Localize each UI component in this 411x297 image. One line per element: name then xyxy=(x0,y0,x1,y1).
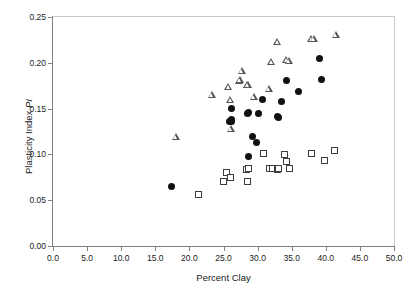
data-point-circle xyxy=(245,109,252,116)
y-axis-tick xyxy=(48,200,53,201)
x-axis-tick-label: 45.0 xyxy=(352,254,369,263)
data-point-circle xyxy=(316,55,323,62)
x-axis-tick xyxy=(224,246,225,251)
data-point-circle xyxy=(259,96,266,103)
y-axis-tick xyxy=(48,154,53,155)
data-point-circle xyxy=(278,98,285,105)
data-point-square xyxy=(275,165,282,172)
scatter-plot-figure: 0.000.050.100.150.200.250.05.010.015.020… xyxy=(0,0,411,297)
data-point-triangle xyxy=(227,125,235,132)
data-point-square xyxy=(281,151,288,158)
data-point-circle xyxy=(283,77,290,84)
y-axis-tick xyxy=(48,109,53,110)
data-point-circle xyxy=(245,153,252,160)
x-axis-tick-label: 15.0 xyxy=(147,254,164,263)
x-axis-tick xyxy=(87,246,88,251)
data-point-square xyxy=(244,178,251,185)
y-axis-tick-label: 0.25 xyxy=(29,13,46,22)
data-point-circle xyxy=(275,114,282,121)
data-point-circle xyxy=(295,88,302,95)
x-axis-tick xyxy=(360,246,361,251)
data-point-circle xyxy=(255,110,262,117)
data-point-triangle xyxy=(172,133,180,140)
data-point-circle xyxy=(228,118,235,125)
x-axis-tick-label: 35.0 xyxy=(283,254,300,263)
x-axis-tick-label: 20.0 xyxy=(181,254,198,263)
data-point-triangle xyxy=(273,38,281,45)
x-axis-tick-label: 10.0 xyxy=(113,254,130,263)
y-axis-tick xyxy=(48,17,53,18)
y-axis-title-symbol: PI xyxy=(23,99,34,108)
y-axis-tick xyxy=(48,63,53,64)
x-axis-tick-label: 30.0 xyxy=(249,254,266,263)
data-point-triangle xyxy=(285,57,293,64)
data-series-layer xyxy=(53,17,394,246)
data-point-triangle xyxy=(244,81,252,88)
x-axis-tick-label: 40.0 xyxy=(318,254,335,263)
data-point-circle xyxy=(228,105,235,112)
data-point-square xyxy=(331,147,338,154)
x-axis-tick xyxy=(326,246,327,251)
data-point-triangle xyxy=(224,83,232,90)
x-axis-tick xyxy=(258,246,259,251)
x-axis-tick xyxy=(189,246,190,251)
data-point-triangle xyxy=(310,35,318,42)
data-point-square xyxy=(260,150,267,157)
x-axis-tick xyxy=(292,246,293,251)
data-point-triangle xyxy=(332,31,340,38)
data-point-square xyxy=(308,150,315,157)
data-point-triangle xyxy=(265,85,273,92)
x-axis-tick-label: 5.0 xyxy=(81,254,93,263)
data-point-triangle xyxy=(250,93,258,100)
x-axis-tick xyxy=(53,246,54,251)
data-point-triangle xyxy=(238,67,246,74)
data-point-square xyxy=(321,157,328,164)
data-point-triangle xyxy=(208,91,216,98)
y-axis-title-text: Plasticity Index xyxy=(23,108,34,174)
data-point-square xyxy=(245,165,252,172)
data-point-square xyxy=(195,191,202,198)
x-axis-tick xyxy=(121,246,122,251)
data-point-triangle xyxy=(226,96,234,103)
plot-area: 0.000.050.100.150.200.250.05.010.015.020… xyxy=(52,16,395,247)
x-axis-tick-label: 50.0 xyxy=(386,254,403,263)
x-axis-tick-label: 25.0 xyxy=(215,254,232,263)
x-axis-title: Percent Clay xyxy=(52,272,395,283)
data-point-square xyxy=(286,165,293,172)
x-axis-tick xyxy=(394,246,395,251)
y-axis-title: Plasticity Index PI xyxy=(23,57,34,217)
data-point-square xyxy=(227,174,234,181)
data-point-triangle xyxy=(267,58,275,65)
x-axis-tick-label: 0.0 xyxy=(47,254,59,263)
data-point-circle xyxy=(253,139,260,146)
x-axis-tick xyxy=(155,246,156,251)
data-point-circle xyxy=(168,183,175,190)
y-axis-tick-label: 0.00 xyxy=(29,242,46,251)
data-point-circle xyxy=(318,76,325,83)
